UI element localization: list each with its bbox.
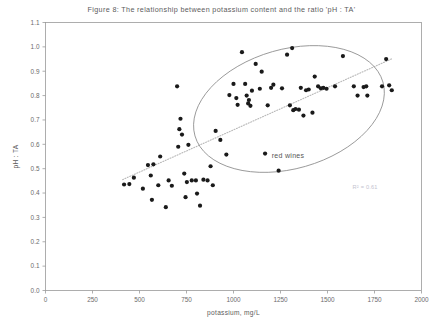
y-tick-label: 0.4 bbox=[31, 189, 40, 196]
x-tick-label: 1500 bbox=[320, 296, 335, 303]
axes-frame bbox=[46, 23, 422, 291]
data-point bbox=[176, 145, 180, 149]
data-point bbox=[190, 178, 194, 182]
data-point bbox=[258, 87, 262, 91]
data-point bbox=[186, 143, 190, 147]
data-point bbox=[333, 84, 337, 88]
y-tick-label: 0.7 bbox=[31, 116, 40, 123]
data-point bbox=[384, 57, 388, 61]
data-point bbox=[234, 96, 238, 100]
data-point bbox=[167, 178, 171, 182]
data-point bbox=[277, 169, 281, 173]
data-point bbox=[307, 87, 311, 91]
data-point bbox=[355, 93, 359, 97]
data-point bbox=[231, 82, 235, 86]
data-point bbox=[263, 151, 267, 155]
data-point bbox=[285, 53, 289, 57]
data-point bbox=[170, 184, 174, 188]
x-tick-label: 1750 bbox=[367, 296, 382, 303]
data-point bbox=[183, 195, 187, 199]
data-point bbox=[141, 187, 145, 191]
y-axis-ticks: 0.00.10.20.30.40.50.60.70.80.91.01.1 bbox=[31, 19, 46, 294]
data-point bbox=[227, 93, 231, 97]
data-point bbox=[324, 87, 328, 91]
data-point bbox=[194, 178, 198, 182]
data-point bbox=[195, 191, 199, 195]
red-wines-label: red wines bbox=[272, 152, 305, 159]
x-axis-ticks: 025050075010001250150017502000 bbox=[44, 291, 429, 303]
x-tick-label: 750 bbox=[181, 296, 192, 303]
y-tick-label: 0.5 bbox=[31, 165, 40, 172]
data-point bbox=[387, 83, 391, 87]
data-point bbox=[214, 129, 218, 133]
data-point bbox=[341, 54, 345, 58]
y-tick-label: 0.3 bbox=[31, 214, 40, 221]
data-point bbox=[243, 82, 247, 86]
data-point bbox=[290, 46, 294, 50]
data-point bbox=[301, 113, 305, 117]
data-point bbox=[164, 205, 168, 209]
x-tick-label: 1250 bbox=[273, 296, 288, 303]
y-tick-label: 1.0 bbox=[31, 43, 40, 50]
data-point bbox=[380, 84, 384, 88]
data-point bbox=[248, 104, 252, 108]
data-point bbox=[266, 103, 270, 107]
scatter-plot: 0.00.10.20.30.40.50.60.70.80.91.01.1 025… bbox=[0, 0, 443, 327]
data-point bbox=[177, 127, 181, 131]
data-point bbox=[211, 183, 215, 187]
data-point bbox=[224, 152, 228, 156]
r2-label: R² = 0.61 bbox=[353, 184, 378, 190]
data-point bbox=[201, 178, 205, 182]
data-point bbox=[364, 84, 368, 88]
y-tick-label: 0.0 bbox=[31, 287, 40, 294]
trendline bbox=[123, 59, 393, 180]
data-point bbox=[218, 138, 222, 142]
data-point bbox=[198, 204, 202, 208]
x-axis-title: potassium, mg/L bbox=[207, 309, 260, 317]
y-tick-label: 1.1 bbox=[31, 19, 40, 26]
data-point bbox=[245, 93, 249, 97]
data-point bbox=[365, 93, 369, 97]
chart-annotations: red winesR² = 0.61 bbox=[272, 152, 378, 191]
data-point bbox=[260, 70, 264, 74]
x-tick-label: 0 bbox=[44, 296, 48, 303]
data-point bbox=[151, 162, 155, 166]
data-point bbox=[240, 50, 244, 54]
data-point bbox=[310, 111, 314, 115]
data-point bbox=[122, 182, 126, 186]
x-tick-label: 2000 bbox=[414, 296, 429, 303]
data-point bbox=[288, 103, 292, 107]
data-point bbox=[182, 171, 186, 175]
chart-figure: Figure 8: The relationship between potas… bbox=[0, 0, 443, 327]
data-point bbox=[156, 183, 160, 187]
y-axis-title: pH : TA bbox=[12, 144, 20, 168]
data-point bbox=[299, 86, 303, 90]
y-tick-label: 0.1 bbox=[31, 262, 40, 269]
y-tick-label: 0.9 bbox=[31, 68, 40, 75]
data-point bbox=[313, 74, 317, 78]
data-point bbox=[158, 154, 162, 158]
data-point bbox=[208, 164, 212, 168]
data-point bbox=[236, 103, 240, 107]
data-point bbox=[132, 176, 136, 180]
data-point bbox=[390, 88, 394, 92]
data-point bbox=[254, 62, 258, 66]
data-point bbox=[280, 86, 284, 90]
y-tick-label: 0.6 bbox=[31, 141, 40, 148]
data-point bbox=[180, 132, 184, 136]
data-point bbox=[185, 180, 189, 184]
data-point bbox=[146, 163, 150, 167]
x-tick-label: 250 bbox=[87, 296, 98, 303]
data-point bbox=[352, 84, 356, 88]
data-point bbox=[205, 178, 209, 182]
y-tick-label: 0.2 bbox=[31, 238, 40, 245]
data-point bbox=[175, 84, 179, 88]
data-point bbox=[247, 98, 251, 102]
data-point bbox=[250, 89, 254, 93]
x-tick-label: 1000 bbox=[226, 296, 241, 303]
data-point bbox=[178, 117, 182, 121]
data-point bbox=[149, 173, 153, 177]
data-point bbox=[271, 83, 275, 87]
data-point bbox=[297, 108, 301, 112]
data-point bbox=[150, 198, 154, 202]
